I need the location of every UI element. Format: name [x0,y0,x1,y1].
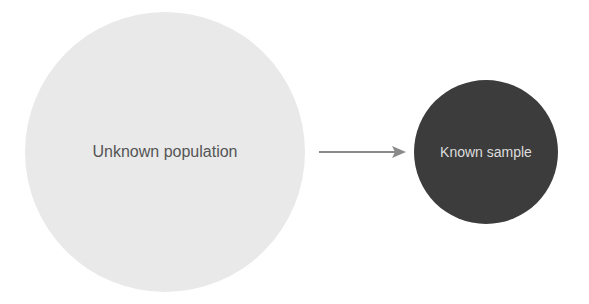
known-sample-node: Known sample [414,80,558,224]
known-sample-label: Known sample [440,144,532,160]
